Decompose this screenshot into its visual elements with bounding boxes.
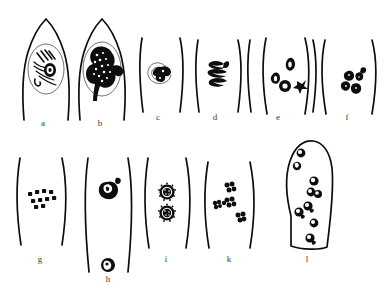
- plate-background: [0, 0, 390, 290]
- nucleus-l-1: [297, 149, 306, 158]
- panel-label-c: c: [156, 112, 160, 122]
- nucleus-h-lower: [101, 258, 115, 272]
- nucleus-l-3: [309, 176, 318, 185]
- panel-label-h: h: [106, 274, 111, 284]
- panel-label-g: g: [38, 254, 43, 264]
- panel-label-f: f: [346, 112, 349, 122]
- nucleus-l-8: [310, 219, 319, 228]
- nucleus-l-2: [293, 162, 301, 170]
- panel-label-d: d: [213, 112, 218, 122]
- figure-plate: a: [0, 0, 390, 290]
- panel-label-a: a: [41, 118, 45, 128]
- nucleus-l-4: [307, 188, 316, 197]
- plate-canvas: a: [0, 0, 390, 290]
- nucleus-l-5: [314, 190, 322, 198]
- panel-label-e: e: [276, 112, 280, 122]
- panel-label-k: k: [227, 254, 232, 264]
- panel-label-b: b: [98, 118, 103, 128]
